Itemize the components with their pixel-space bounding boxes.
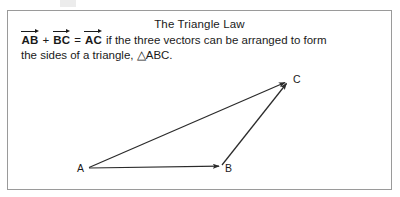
plus-operator: + <box>39 33 53 48</box>
vertex-label-a: A <box>77 163 84 174</box>
statement-line-1-text: if the three vectors can be arranged to … <box>102 33 330 48</box>
vector-ab-notation: AB <box>22 32 39 48</box>
statement-line-1: AB+BC=ACif the three vectors can be arra… <box>21 32 379 48</box>
vertex-label-b: B <box>225 163 232 174</box>
vertex-label-c: C <box>293 74 301 85</box>
scan-artifact-mark <box>60 0 76 7</box>
vector-bc-notation: BC <box>53 32 70 48</box>
equals-operator: = <box>71 33 85 48</box>
statement-line-2: the sides of a triangle, △ABC. <box>21 48 379 63</box>
statement-block: AB+BC=ACif the three vectors can be arra… <box>21 32 379 62</box>
vector-ac-notation: AC <box>85 32 102 48</box>
figure-panel: The Triangle Law AB+BC=ACif the three ve… <box>7 10 392 190</box>
